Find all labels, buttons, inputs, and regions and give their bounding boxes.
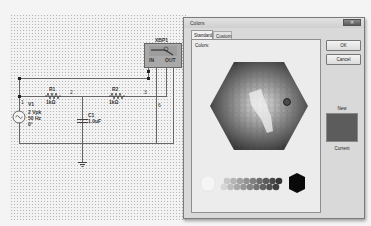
r1-ref: R1 [49, 87, 55, 92]
colors-dialog: Colors ✕ Standard Custom Colors: [183, 17, 365, 219]
source-phase: 0° [28, 122, 33, 127]
node-label: 6 [158, 103, 161, 108]
ok-button[interactable]: OK [326, 40, 361, 51]
dialog-titlebar[interactable]: Colors ✕ [184, 18, 364, 28]
wire-main[interactable] [19, 96, 166, 97]
source-ref: V1 [28, 102, 34, 107]
junction [18, 95, 21, 98]
wire-out[interactable] [166, 68, 167, 97]
ac-source-icon[interactable] [12, 110, 26, 124]
colors-label: Colors: [195, 43, 209, 48]
cancel-button[interactable]: Cancel [326, 54, 361, 65]
r1-value: 1kΩ [46, 100, 56, 105]
ground-icon[interactable] [78, 162, 87, 167]
bode-plot-icon [149, 46, 177, 56]
color-hexagon-palette[interactable] [209, 61, 309, 151]
tab-custom[interactable]: Custom [213, 31, 232, 39]
junction [147, 70, 150, 73]
bode-plotter-instrument[interactable]: IN OUT [144, 43, 182, 68]
dialog-title: Colors [190, 20, 204, 26]
capacitor-c1-icon[interactable] [77, 118, 88, 124]
c1-value: 1.0uF [88, 119, 101, 124]
node-label: 2 [70, 90, 73, 95]
standard-colors-panel: Colors: [191, 39, 321, 213]
junction [147, 77, 150, 80]
wire-top[interactable] [19, 78, 149, 79]
new-color-label: New [326, 106, 358, 111]
node-label: 3 [144, 90, 147, 95]
r2-ref: R2 [112, 87, 118, 92]
pin-in-label: IN [149, 58, 154, 63]
close-button[interactable]: ✕ [343, 19, 361, 26]
grayscale-palette[interactable] [197, 172, 315, 196]
wire-bottom[interactable] [19, 143, 173, 144]
close-icon: ✕ [350, 19, 354, 25]
wire-node6[interactable] [156, 68, 157, 144]
wire-cap[interactable] [82, 96, 83, 163]
pin-out-label: OUT [165, 58, 176, 63]
node-label: 1 [21, 100, 24, 105]
wire-out2[interactable] [173, 68, 174, 144]
r2-value: 1kΩ [109, 100, 119, 105]
current-color-label: Current [326, 146, 358, 151]
selected-color-marker [284, 99, 291, 106]
color-preview-swatch [326, 113, 358, 142]
junction [18, 77, 21, 80]
tab-standard[interactable]: Standard [191, 30, 213, 39]
